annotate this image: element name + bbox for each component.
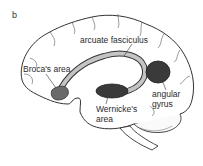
panel-letter: b <box>12 10 17 20</box>
arcuate-fasciculus-label: arcuate fasciculus <box>80 36 148 45</box>
brain-illustration <box>0 0 203 166</box>
wernicke-area-label-line2: area <box>96 115 113 124</box>
angular-gyrus-label-line1: angular <box>152 90 180 99</box>
broca-area-label: Broca's area <box>23 65 70 74</box>
brain-diagram: b arcuate fasciculus Broca's area angula… <box>0 0 203 166</box>
angular-gyrus-label-line2: gyrus <box>152 100 173 109</box>
angular-gyrus-region <box>146 61 170 83</box>
wernicke-area-region <box>96 84 128 98</box>
wernicke-area-label-line1: Wernicke's <box>96 105 137 114</box>
